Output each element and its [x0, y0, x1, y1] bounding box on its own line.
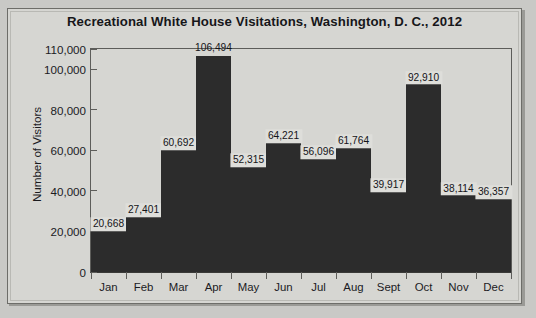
chart-screenshot: Recreational White House Visitations, Wa…: [0, 0, 536, 318]
bar-value-label: 36,357: [475, 186, 512, 200]
chart-title: Recreational White House Visitations, Wa…: [7, 14, 522, 29]
bar: [476, 198, 511, 272]
x-axis-tick-mark: [266, 272, 267, 279]
y-axis-tick: 100,000: [44, 63, 91, 76]
y-axis-tick-mark: [91, 109, 97, 110]
x-axis-category-label: Aug: [343, 281, 363, 293]
y-axis-tick-mark: [91, 150, 97, 151]
y-axis-tick-label: 110,000: [45, 43, 91, 56]
bar: [161, 149, 196, 272]
y-axis-tick-label: 60,000: [51, 144, 91, 157]
bar-value-label: 92,910: [405, 71, 442, 85]
y-axis-tick-mark: [91, 69, 97, 70]
bar: [266, 142, 301, 272]
x-axis-category-label: Mar: [169, 281, 189, 293]
y-axis-tick-mark: [91, 190, 97, 191]
bar-value-label: 52,315: [230, 153, 267, 167]
x-axis-category-label: Jan: [99, 281, 117, 293]
bar: [196, 56, 231, 272]
x-axis-category-label: Nov: [448, 281, 468, 293]
y-axis-tick: 0: [80, 266, 91, 279]
bar-value-label: 60,692: [160, 136, 197, 150]
bar-value-label: 64,221: [265, 129, 302, 143]
bar-value-label: 106,494: [192, 41, 235, 55]
x-axis-tick-mark: [336, 272, 337, 279]
bar-value-label: 61,764: [335, 134, 372, 148]
bar-value-label: 20,668: [90, 217, 127, 231]
x-axis-tick-mark: [91, 272, 92, 279]
y-axis-tick: 60,000: [51, 144, 91, 157]
x-axis-category-label: Jun: [274, 281, 292, 293]
plot-inner: 020,00040,00060,00080,000100,000110,0002…: [91, 49, 511, 272]
x-axis-tick-mark: [406, 272, 407, 279]
bar: [231, 166, 266, 272]
bar-value-label: 56,096: [300, 146, 337, 160]
x-axis-tick-mark: [476, 272, 477, 279]
y-axis-tick: 110,000: [45, 43, 91, 56]
x-axis-tick-mark: [301, 272, 302, 279]
bar: [406, 84, 441, 272]
bar: [91, 230, 126, 272]
y-axis-tick: 40,000: [51, 184, 91, 197]
x-axis-tick-mark: [196, 272, 197, 279]
bar: [336, 147, 371, 272]
plot-area: 020,00040,00060,00080,000100,000110,0002…: [90, 48, 512, 273]
x-axis-category-label: Apr: [205, 281, 223, 293]
x-axis-tick-mark: [231, 272, 232, 279]
x-axis-category-label: Feb: [134, 281, 154, 293]
bar: [371, 191, 406, 272]
bar: [301, 158, 336, 272]
y-axis-tick-label: 20,000: [51, 225, 91, 238]
y-axis-tick: 20,000: [51, 225, 91, 238]
x-axis-tick-mark: [511, 272, 512, 279]
bar: [126, 216, 161, 272]
bar: [441, 195, 476, 272]
x-axis-tick-mark: [371, 272, 372, 279]
y-axis-tick: 80,000: [51, 103, 91, 116]
y-axis-tick-mark: [91, 49, 97, 50]
x-axis-tick-mark: [126, 272, 127, 279]
x-axis-category-label: Oct: [415, 281, 433, 293]
x-axis-category-label: Dec: [483, 281, 503, 293]
x-axis-category-label: Sept: [377, 281, 400, 293]
x-axis-category-label: May: [238, 281, 260, 293]
y-axis-tick-label: 100,000: [44, 63, 91, 76]
y-axis-tick-label: 80,000: [51, 103, 91, 116]
bar-value-label: 27,401: [125, 204, 162, 218]
x-axis-tick-mark: [441, 272, 442, 279]
bar-value-label: 39,917: [370, 178, 407, 192]
x-axis-category-label: Jul: [311, 281, 326, 293]
y-axis-title: Number of Visitors: [30, 75, 43, 235]
y-axis-tick-label: 40,000: [51, 184, 91, 197]
bar-value-label: 38,114: [440, 182, 476, 196]
y-axis-tick-label: 0: [80, 266, 91, 279]
x-axis-tick-mark: [161, 272, 162, 279]
